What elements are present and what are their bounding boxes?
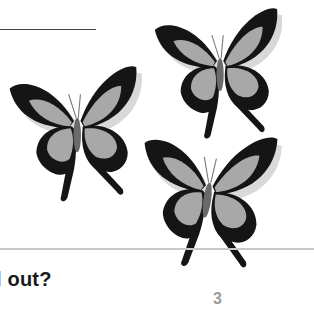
question-text: l out? [0,268,52,291]
butterfly-left [4,62,144,207]
page-number: 3 [213,290,222,308]
butterfly-center [134,124,274,274]
ground-line [0,248,314,250]
top-rule-line [0,29,96,30]
